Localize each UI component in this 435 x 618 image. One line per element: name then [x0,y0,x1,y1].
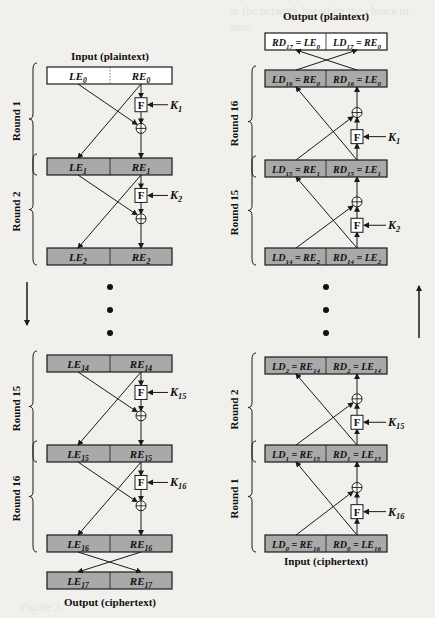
round-label: Round 15 [228,189,240,235]
round-label: Round 2 [10,191,22,232]
round-label: Round 1 [10,101,22,141]
round-label: Round 16 [228,100,240,146]
arrow-line [296,206,353,248]
block-box [47,67,172,84]
input-plaintext-label: Input (plaintext) [71,50,149,63]
ellipsis-dot [323,330,329,336]
round-brace-icon [248,441,256,552]
f-function-label: F [138,189,145,201]
block-box [47,535,172,552]
block-box [47,248,172,265]
round-key-label: K16 [387,505,405,521]
round-key-label: K2 [169,188,182,204]
block-box [47,355,172,372]
encryption-column: Input (plaintext)LE0RE0LE1RE1LE2RE2LE14R… [10,50,187,609]
block-box [47,572,172,589]
input-ciphertext-label: Input (ciphertext) [284,555,368,568]
round-key-label: K1 [387,130,400,146]
round-key-label: K2 [387,218,400,234]
f-function-label: F [354,416,361,428]
round-label: Round 15 [10,385,22,431]
ellipsis-dot [107,330,113,336]
round-key-label: K1 [169,98,182,114]
ellipsis-dot [323,284,329,290]
f-function-label: F [138,99,145,111]
arrow-line [78,175,137,215]
ellipsis-dot [107,307,113,313]
arrow-line [296,492,353,535]
round-brace-icon [248,156,256,265]
ellipsis-dot [107,284,113,290]
round-label: Round 1 [228,478,240,518]
output-ciphertext-label: Output (ciphertext) [64,596,156,609]
arrow-line [296,462,357,535]
arrow-line [296,374,357,445]
round-key-label: K16 [169,475,187,491]
arrow-line [78,84,137,124]
arrow-line [78,462,137,502]
decryption-column: Output (plaintext)RD17 = LE0LD17 = RE0LD… [228,10,419,568]
block-box [47,158,172,175]
round-brace-icon [29,441,37,552]
arrow-line [296,117,353,160]
f-function-label: F [138,476,145,488]
round-label: Round 2 [228,389,240,430]
round-key-label: K15 [169,385,186,401]
arrow-line [78,372,137,412]
f-function-label: F [354,131,361,143]
round-label: Round 16 [10,475,22,521]
arrow-line [296,87,357,160]
arrow-line [296,177,357,248]
f-function-label: F [354,506,361,518]
round-key-label: K15 [387,415,404,431]
f-function-label: F [138,386,145,398]
feistel-diagram: Input (plaintext)LE0RE0LE1RE1LE2RE2LE14R… [0,0,435,618]
arrow-line [296,403,353,445]
f-function-label: F [354,219,361,231]
round-brace-icon [29,154,37,265]
block-box [47,445,172,462]
ellipsis-dot [323,307,329,313]
output-plaintext-label: Output (plaintext) [283,10,369,23]
